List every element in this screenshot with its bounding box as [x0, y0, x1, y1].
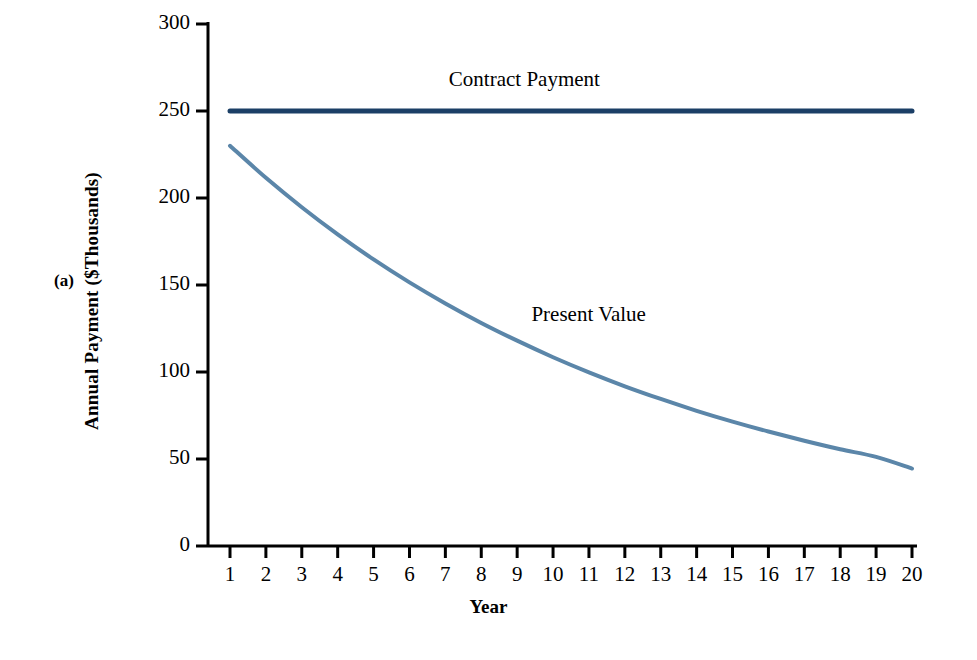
x-axis-tick-label: 7 [425, 562, 465, 587]
data-series [230, 111, 912, 469]
series-label: Contract Payment [449, 67, 600, 92]
x-axis-tick-label: 13 [641, 562, 681, 587]
axes [208, 22, 917, 546]
x-axis-tick-label: 10 [533, 562, 573, 587]
x-axis-tick-label: 11 [569, 562, 609, 587]
x-axis-tick-label: 19 [856, 562, 896, 587]
y-axis-tick-label: 0 [120, 532, 190, 557]
x-axis-tick-label: 3 [282, 562, 322, 587]
x-axis-tick-label: 12 [605, 562, 645, 587]
y-axis-tick-label: 200 [120, 184, 190, 209]
y-axis-ticks [196, 24, 208, 546]
series-label: Present Value [531, 302, 646, 327]
x-axis-tick-label: 20 [892, 562, 932, 587]
chart-figure: (a) Annual Payment ($Thousands) Year 050… [0, 0, 977, 660]
y-axis-tick-label: 250 [120, 97, 190, 122]
y-axis-tick-label: 150 [120, 271, 190, 296]
x-axis-tick-label: 17 [784, 562, 824, 587]
y-axis-tick-label: 50 [120, 445, 190, 470]
x-axis-tick-label: 14 [677, 562, 717, 587]
x-axis-tick-label: 18 [820, 562, 860, 587]
x-axis-tick-label: 4 [318, 562, 358, 587]
y-axis-tick-label: 300 [120, 10, 190, 35]
x-axis-tick-label: 1 [210, 562, 250, 587]
x-axis-tick-label: 15 [713, 562, 753, 587]
x-axis-tick-label: 5 [354, 562, 394, 587]
x-axis-tick-label: 2 [246, 562, 286, 587]
x-axis-tick-label: 9 [497, 562, 537, 587]
x-axis-ticks [230, 546, 912, 558]
y-axis-tick-label: 100 [120, 358, 190, 383]
x-axis-tick-label: 8 [461, 562, 501, 587]
x-axis-tick-label: 6 [389, 562, 429, 587]
x-axis-tick-label: 16 [748, 562, 788, 587]
